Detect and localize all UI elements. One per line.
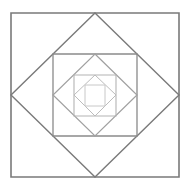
outer-diamond <box>11 13 179 177</box>
second-diamond <box>53 54 137 136</box>
nested-squares-diagram <box>0 0 187 184</box>
outer-square <box>11 13 179 177</box>
inner-square <box>85 85 105 106</box>
third-square <box>74 75 116 116</box>
third-diamond <box>74 75 116 116</box>
second-square <box>53 54 137 136</box>
